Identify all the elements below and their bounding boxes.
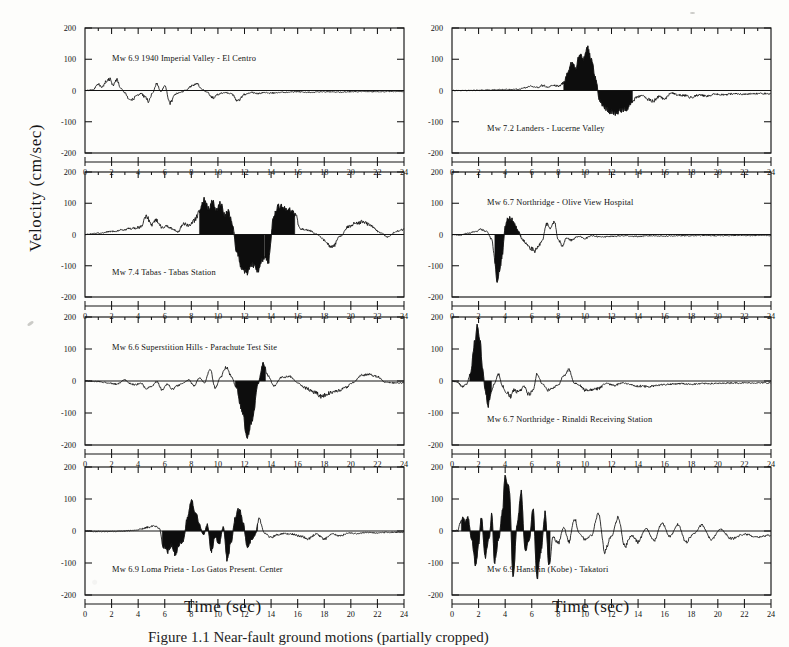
x-tick-label: 24 [767, 610, 775, 619]
waveform-canvas: -200-1000100200024681012141618202224Mw 6… [0, 0, 789, 647]
x-tick-label: 16 [294, 610, 302, 619]
y-tick-label: 200 [431, 463, 443, 472]
y-tick-label: -100 [428, 118, 443, 127]
x-tick-label: 0 [83, 610, 87, 619]
panel-grid: -200-1000100200024681012141618202224Mw 6… [0, 0, 789, 647]
y-tick-label: 100 [64, 495, 76, 504]
y-tick-label: -100 [428, 409, 443, 418]
y-tick-label: 0 [439, 87, 443, 96]
y-tick-label: -100 [428, 559, 443, 568]
y-tick-label: -100 [61, 409, 76, 418]
y-tick-label: -200 [428, 149, 443, 158]
waveform-panel-hanshin-kobe-takatori: -200-1000100200024681012141618202224Mw 6… [428, 463, 775, 619]
x-axis-label-right: Time (sec) [552, 597, 630, 617]
y-tick-label: 100 [431, 345, 443, 354]
x-tick-label: 18 [320, 610, 328, 619]
y-tick-label: -200 [428, 441, 443, 450]
waveform-panel-loma-prieta-los-gatos: -200-1000100200024681012141618202224Mw 6… [61, 463, 408, 619]
y-tick-label: -200 [61, 591, 76, 600]
waveform-panel-tabas-tabas-station: -200-1000100200024681012141618202224Mw 7… [61, 168, 408, 321]
y-tick-label: 100 [431, 55, 443, 64]
panel-title: Mw 6.9 Loma Prieta - Los Gatos Present. … [112, 565, 283, 574]
y-tick-label: 0 [72, 231, 76, 240]
y-tick-label: 200 [431, 168, 443, 177]
y-tick-label: -200 [61, 293, 76, 302]
y-tick-label: 200 [64, 313, 76, 322]
y-tick-label: 0 [439, 377, 443, 386]
panel-title: Mw 6.6 Superstition Hills - Parachute Te… [112, 343, 277, 352]
x-tick-label: 22 [373, 610, 381, 619]
scan-speck [690, 12, 695, 14]
x-tick-label: 20 [714, 610, 722, 619]
x-tick-label: 4 [503, 610, 507, 619]
velocity-pulse-fill [199, 197, 233, 234]
x-tick-label: 6 [530, 610, 534, 619]
x-tick-label: 16 [661, 610, 669, 619]
y-tick-label: 100 [431, 199, 443, 208]
waveform-panel-landers-lucerne-valley: -200-1000100200024681012141618202224Mw 7… [428, 24, 775, 177]
y-tick-label: -100 [61, 559, 76, 568]
y-tick-label: 200 [64, 463, 76, 472]
x-tick-label: 14 [634, 610, 642, 619]
x-tick-label: 18 [687, 610, 695, 619]
y-tick-label: -200 [61, 149, 76, 158]
x-tick-label: 20 [347, 610, 355, 619]
figure-near-fault-velocity-histories: Velocity (cm/sec) -200-10001002000246810… [0, 0, 789, 647]
y-tick-label: 0 [72, 87, 76, 96]
waveform-panel-northridge-rinaldi: -200-1000100200024681012141618202224Mw 6… [428, 313, 775, 469]
y-tick-label: -100 [61, 262, 76, 271]
panel-title: Mw 6.7 Northridge - Rinaldi Receiving St… [487, 415, 653, 424]
figure-caption: Figure 1.1 Near-fault ground motions (pa… [148, 629, 618, 647]
velocity-trace [452, 324, 771, 407]
y-tick-label: -100 [61, 118, 76, 127]
velocity-trace [452, 475, 771, 579]
y-tick-label: -200 [61, 441, 76, 450]
x-tick-label: 24 [400, 610, 408, 619]
panel-title: Mw 7.4 Tabas - Tabas Station [112, 268, 216, 277]
x-axis-label-left: Time (sec) [184, 597, 262, 617]
velocity-pulse-fill [564, 46, 633, 116]
y-tick-label: -200 [428, 591, 443, 600]
y-tick-label: 100 [64, 199, 76, 208]
waveform-panel-imperial-valley-el-centro: -200-1000100200024681012141618202224Mw 6… [61, 24, 408, 177]
panel-title: Mw 6.7 Northridge - Olive View Hospital [487, 198, 634, 207]
x-tick-label: 2 [477, 610, 481, 619]
panel-title: Mw 7.2 Landers - Lucerne Valley [487, 124, 605, 133]
y-tick-label: 0 [72, 377, 76, 386]
y-tick-label: -200 [428, 293, 443, 302]
y-tick-label: 200 [64, 168, 76, 177]
y-tick-label: 0 [439, 231, 443, 240]
y-tick-label: 200 [431, 24, 443, 33]
y-tick-label: 0 [439, 527, 443, 536]
waveform-panel-northridge-olive-view: -200-1000100200024681012141618202224Mw 6… [428, 168, 775, 321]
y-tick-label: 200 [64, 24, 76, 33]
panel-title: Mw 6.9 Hanshin (Kobe) - Takatori [487, 565, 609, 574]
y-tick-label: 100 [64, 345, 76, 354]
x-tick-label: 6 [163, 610, 167, 619]
x-tick-label: 2 [110, 610, 114, 619]
waveform-panel-superstition-hills-parachute-test-site: -200-1000100200024681012141618202224Mw 6… [61, 313, 408, 469]
x-tick-label: 22 [740, 610, 748, 619]
y-tick-label: 0 [72, 527, 76, 536]
velocity-pulse-fill [470, 324, 492, 407]
panel-title: Mw 6.9 1940 Imperial Valley - El Centro [112, 54, 256, 63]
x-tick-label: 4 [136, 610, 140, 619]
x-tick-label: 14 [267, 610, 275, 619]
velocity-trace [85, 500, 404, 562]
y-tick-label: 200 [431, 313, 443, 322]
y-tick-label: 100 [431, 495, 443, 504]
velocity-trace [85, 78, 404, 105]
x-tick-label: 0 [450, 610, 454, 619]
y-tick-label: -100 [428, 262, 443, 271]
y-tick-label: 100 [64, 55, 76, 64]
